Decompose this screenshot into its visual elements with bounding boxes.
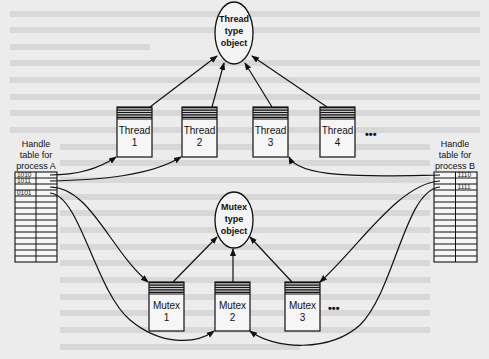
thread-number: 1 <box>132 137 138 148</box>
handle-value: 1110 <box>458 171 472 178</box>
table-a-label-3: process A <box>16 161 56 171</box>
mutex-object-3: Mutex3 <box>285 282 320 331</box>
handle-value: 0101 <box>17 189 32 196</box>
thread-number: 2 <box>197 137 203 148</box>
handle-table-b: 11101111 <box>434 171 477 262</box>
table-b-label-3: process B <box>435 161 475 171</box>
handle-object-diagram: Thread type object Mutex type object Thr… <box>0 0 489 359</box>
mutex-type-object: Mutex type object <box>215 192 253 248</box>
table-b-label-1: Handle <box>441 139 470 149</box>
thread-name: Thread <box>119 125 151 136</box>
mutex-name: Mutex <box>219 300 246 311</box>
arrow-mutex1-to-type <box>173 237 217 282</box>
thread-number: 3 <box>268 137 274 148</box>
handle-table-a: 101010110101 <box>15 171 57 262</box>
thread-type-object: Thread type object <box>215 2 253 64</box>
handle-value: 1011 <box>17 177 31 184</box>
mutex-type-label-2: type <box>225 214 244 224</box>
handle-table-b-label: Handle table for process B <box>435 139 475 171</box>
handle-table-a-label: Handle table for process A <box>16 139 56 171</box>
mutex-number: 3 <box>300 312 306 323</box>
thread-object-4: Thread4 <box>320 107 355 157</box>
table-b-pointers <box>250 157 440 345</box>
handle-value: 1111 <box>458 183 471 190</box>
table-a-label-1: Handle <box>22 139 51 149</box>
mutex-name: Mutex <box>153 300 180 311</box>
thread-name: Thread <box>322 125 354 136</box>
threads-ellipsis: ••• <box>365 128 377 140</box>
pointer-b1-to-thread3 <box>289 157 440 176</box>
mutex-number: 1 <box>164 312 170 323</box>
thread-number: 4 <box>335 137 341 148</box>
handle-table-row: 1110 <box>458 171 472 178</box>
arrow-thread3-to-type <box>245 63 272 107</box>
mutex-type-label-1: Mutex <box>221 202 247 212</box>
table-b-label-2: table for <box>439 150 472 160</box>
thread-object-3: Thread3 <box>253 107 288 157</box>
table-a-label-2: table for <box>20 150 53 160</box>
mutex-type-label-3: object <box>221 226 248 236</box>
thread-type-label-1: Thread <box>219 14 249 24</box>
mutexes-ellipsis: ••• <box>328 302 340 314</box>
thread-object-2: Thread2 <box>182 107 217 157</box>
mutex-number: 2 <box>230 312 236 323</box>
mutex-name: Mutex <box>289 300 316 311</box>
mutex-object-1: Mutex1 <box>149 282 184 331</box>
arrow-thread2-to-type <box>212 63 224 107</box>
thread-type-label-2: type <box>225 26 244 36</box>
thread-object-1: Thread1 <box>117 107 152 157</box>
mutex-object-2: Mutex2 <box>215 282 250 331</box>
mutex-objects: Mutex1Mutex2Mutex3 <box>149 282 320 331</box>
thread-name: Thread <box>255 125 287 136</box>
thread-name: Thread <box>184 125 216 136</box>
thread-type-label-3: object <box>221 38 248 48</box>
arrow-mutex3-to-type <box>250 237 292 282</box>
